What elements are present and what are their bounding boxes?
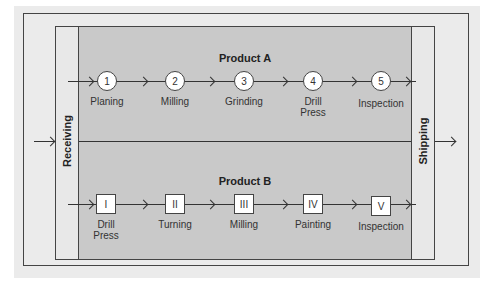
station-v-node: V — [371, 196, 391, 216]
station-ii-node: II — [165, 194, 185, 214]
station-1-node: 1 — [97, 71, 117, 91]
station-5-node: 5 — [371, 71, 391, 91]
shipping-label: Shipping — [417, 106, 429, 176]
station-iv-label: Painting — [278, 219, 348, 230]
station-iv-node: IV — [303, 194, 323, 214]
station-3-node: 3 — [234, 71, 254, 91]
station-5-label: Inspection — [346, 98, 416, 109]
station-1-label: Planing — [72, 96, 142, 107]
station-v-label: Inspection — [346, 221, 416, 232]
station-iii-node: III — [234, 194, 254, 214]
station-2-label: Milling — [140, 96, 210, 107]
station-3-label: Grinding — [209, 96, 279, 107]
product-b-title: Product B — [185, 175, 305, 187]
station-4-label: Drill Press — [278, 96, 348, 118]
station-iii-label: Milling — [209, 219, 279, 230]
station-ii-label: Turning — [140, 219, 210, 230]
product-a-title: Product A — [185, 52, 305, 64]
station-2-node: 2 — [165, 71, 185, 91]
station-4-node: 4 — [303, 71, 323, 91]
receiving-label: Receiving — [61, 106, 73, 176]
station-i-node: I — [96, 194, 116, 214]
product-divider-line — [79, 141, 411, 142]
station-i-label: Drill Press — [71, 219, 141, 241]
